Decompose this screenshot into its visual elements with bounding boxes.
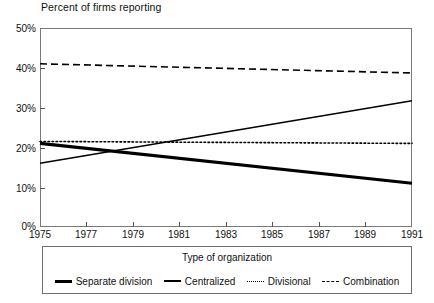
legend-item-centralized[interactable]: Centralized (164, 276, 236, 287)
y-tick-label: 50% (2, 23, 36, 34)
x-tick-label: 1985 (261, 229, 283, 240)
y-tick-label: 30% (2, 103, 36, 114)
line-dotted-icon (247, 277, 264, 285)
legend-item-combination[interactable]: Combination (322, 276, 399, 287)
legend-items: Separate division Centralized Divisional… (49, 273, 405, 289)
legend-label: Divisional (268, 276, 311, 287)
x-tick-label: 1975 (29, 229, 51, 240)
series-line-centralized (40, 101, 412, 163)
chart-title: Percent of firms reporting (41, 1, 161, 13)
series-line-separate-division (40, 143, 412, 183)
x-tick-label: 1979 (122, 229, 144, 240)
legend: Type of organization Separate division C… (42, 246, 412, 294)
y-tick-label: 20% (2, 143, 36, 154)
legend-label: Separate division (76, 276, 153, 287)
y-tick-label: 40% (2, 63, 36, 74)
x-tick-label: 1981 (168, 229, 190, 240)
x-tick-label: 1983 (215, 229, 237, 240)
legend-label: Combination (343, 276, 399, 287)
series-line-divisional (40, 141, 412, 143)
legend-label: Centralized (185, 276, 236, 287)
legend-item-separate-division[interactable]: Separate division (55, 276, 153, 287)
x-tick-label: 1989 (354, 229, 376, 240)
legend-title: Type of organization (43, 252, 411, 263)
x-tick-label: 1987 (308, 229, 330, 240)
x-tick-label: 1977 (75, 229, 97, 240)
y-axis: 50% 40% 30% 20% 10% 0% (0, 0, 36, 303)
y-tick-label: 10% (2, 183, 36, 194)
x-tick-label: 1991 (401, 229, 423, 240)
series-layer (40, 28, 412, 227)
chart-root: Percent of firms reporting 50% 40% 30% 2… (0, 0, 434, 303)
line-dashed-icon (322, 277, 339, 285)
series-line-combination (40, 64, 412, 73)
legend-item-divisional[interactable]: Divisional (247, 276, 311, 287)
line-solid-thin-icon (164, 277, 181, 285)
line-solid-thick-icon (55, 277, 72, 285)
